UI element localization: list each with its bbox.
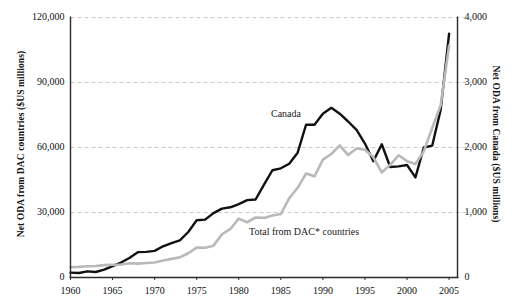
series-line-canada [71, 34, 450, 273]
x-axis-tick-label: 1975 [175, 285, 219, 296]
y-axis-right-tick-label: 0 [465, 271, 470, 282]
series-annotation-dac: Total from DAC* countries [249, 226, 359, 237]
y-axis-right-tick-label: 1,000 [465, 206, 488, 217]
y-axis-left-tick-label: 0 [0, 271, 65, 282]
y-axis-right-tick-label: 4,000 [465, 11, 488, 22]
plot-area [0, 0, 515, 306]
chart-container: Net ODA from DAC countries ($US millions… [0, 0, 515, 306]
x-axis-tick-label: 1965 [91, 285, 135, 296]
x-axis-tick-label: 1985 [259, 285, 303, 296]
y-axis-left-tick-label: 60,000 [0, 141, 65, 152]
x-axis-tick-label: 2005 [427, 285, 471, 296]
series-annotation-canada: Canada [271, 108, 301, 119]
x-axis-tick-label: 2000 [385, 285, 429, 296]
x-axis-tick-label: 1980 [217, 285, 261, 296]
y-axis-left-tick-label: 90,000 [0, 76, 65, 87]
x-axis-tick-label: 1960 [49, 285, 93, 296]
y-axis-left-tick-label: 120,000 [0, 11, 65, 22]
y-axis-left-tick-label: 30,000 [0, 206, 65, 217]
x-axis-tick-label: 1990 [301, 285, 345, 296]
y-axis-right-tick-label: 2,000 [465, 141, 488, 152]
x-axis-tick-label: 1995 [343, 285, 387, 296]
y-axis-right-tick-label: 3,000 [465, 76, 488, 87]
x-axis-tick-label: 1970 [133, 285, 177, 296]
